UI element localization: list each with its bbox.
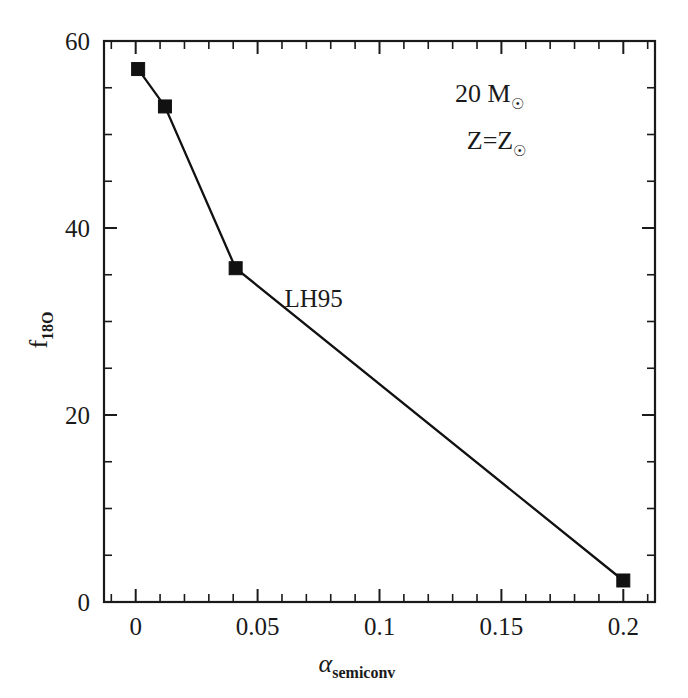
y-tick-label: 20 <box>65 402 90 429</box>
data-point-marker <box>229 262 242 275</box>
series-line-lh95 <box>138 69 623 580</box>
y-axis-tick-labels: 0204060 <box>65 28 90 616</box>
mass-annotation: 20 M☉ <box>455 79 524 112</box>
y-tick-label: 60 <box>65 28 90 55</box>
x-axis-major-ticks <box>136 41 624 602</box>
x-tick-label: 0.15 <box>480 613 524 640</box>
x-tick-label: 0.2 <box>608 613 639 640</box>
axes-frame <box>104 41 655 602</box>
x-tick-label: 0 <box>129 613 142 640</box>
x-tick-label: 0.05 <box>236 613 280 640</box>
series-label-lh95: LH95 <box>285 285 343 312</box>
y-tick-label: 40 <box>65 215 90 242</box>
data-point-marker <box>158 100 171 113</box>
x-axis-minor-ticks <box>111 41 647 602</box>
svg-text:αsemiconv: αsemiconv <box>319 649 396 681</box>
data-point-marker <box>617 574 630 587</box>
metallicity-annotation: Z=Z☉ <box>467 126 526 159</box>
y-tick-label: 0 <box>78 589 91 616</box>
chart-annotations: 20 M☉Z=Z☉LH95 <box>285 79 527 313</box>
data-point-marker <box>132 63 145 76</box>
x-axis-title: αsemiconv <box>319 649 396 681</box>
figure-container: 00.050.10.150.2 0204060 20 M☉Z=Z☉LH95 αs… <box>0 0 688 698</box>
data-series-lh95 <box>132 63 630 587</box>
chart-canvas: 00.050.10.150.2 0204060 20 M☉Z=Z☉LH95 αs… <box>0 0 688 698</box>
x-axis-tick-labels: 00.050.10.150.2 <box>129 613 638 640</box>
x-tick-label: 0.1 <box>364 613 395 640</box>
svg-text:f18O: f18O <box>24 311 56 348</box>
y-axis-major-ticks <box>104 41 655 602</box>
y-axis-title: f18O <box>24 311 56 348</box>
